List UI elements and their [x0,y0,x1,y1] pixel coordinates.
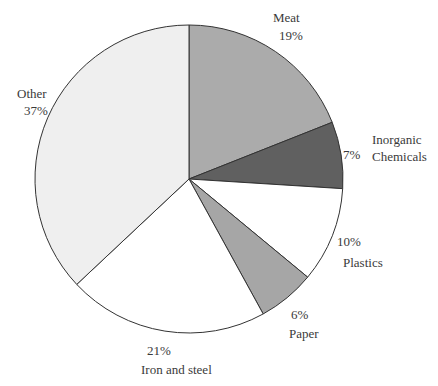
label-other-name: Other [17,87,47,100]
label-meat-name: Meat [273,11,300,24]
label-inorganic-pct: 7% [343,148,360,161]
pie-slices [35,25,343,333]
label-paper-pct: 6% [291,308,308,321]
label-plastics-name: Plastics [343,256,383,269]
label-inorganic-name-line2: Chemicals [372,150,427,163]
label-meat-pct: 19% [279,29,303,42]
label-other-pct: 37% [24,104,48,117]
label-iron-pct: 21% [147,344,171,357]
pie-chart [0,0,438,386]
label-inorganic-name-line1: Inorganic [372,133,422,146]
label-iron-name: Iron and steel [141,363,212,376]
label-plastics-pct: 10% [337,235,361,248]
label-paper-name: Paper [289,327,319,340]
